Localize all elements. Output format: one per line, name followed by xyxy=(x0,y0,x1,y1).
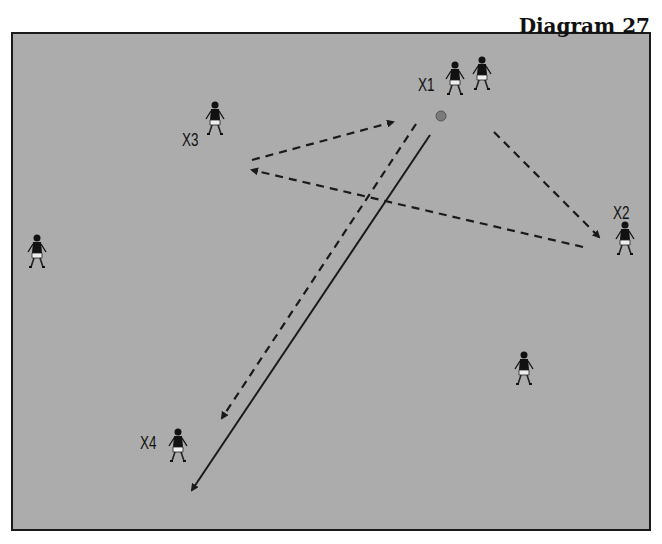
pass-arrows xyxy=(192,122,599,490)
ball-icon xyxy=(436,111,446,121)
player-icon-x4 xyxy=(169,429,187,462)
player-icon-x1 xyxy=(446,62,464,95)
player-icon-1 xyxy=(473,57,491,90)
player-icon-x3 xyxy=(206,102,224,135)
players xyxy=(28,57,634,462)
pass-arrow-0 xyxy=(252,122,393,160)
pass-arrow-1 xyxy=(252,170,583,247)
player-icon-4 xyxy=(28,235,46,268)
player-icon-x2 xyxy=(616,222,634,255)
diagram-overlay xyxy=(0,0,662,544)
pass-arrow-2 xyxy=(494,132,599,237)
player-icon-5 xyxy=(515,352,533,385)
run-arrow-4 xyxy=(192,135,430,490)
pass-arrow-3 xyxy=(222,124,416,418)
